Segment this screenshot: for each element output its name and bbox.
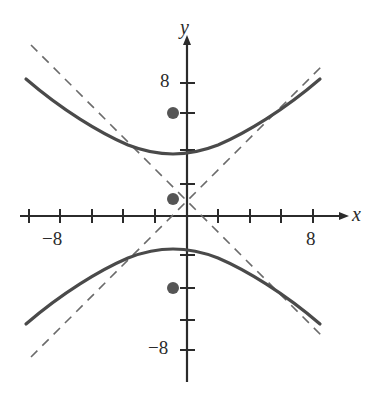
center-point <box>167 193 179 205</box>
axis-group <box>20 44 340 382</box>
plot-canvas <box>0 0 376 398</box>
x-tick-label-pos8: 8 <box>306 228 316 250</box>
marked-points-group <box>167 107 179 294</box>
hyperbola-figure: y x −8 8 8 −8 <box>0 0 376 398</box>
y-axis-label: y <box>180 16 189 39</box>
lower-point <box>167 282 179 294</box>
y-tick-label-pos8: 8 <box>160 70 170 92</box>
x-tick-label-neg8: −8 <box>42 228 62 250</box>
x-axis-label: x <box>352 203 361 226</box>
upper-point <box>167 107 179 119</box>
y-tick-label-neg8: −8 <box>148 337 168 359</box>
